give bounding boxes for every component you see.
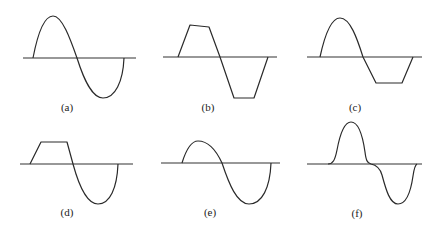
panel-f: (f) [307, 122, 422, 220]
label-b: (b) [202, 101, 215, 114]
panel-a: (a) [23, 16, 136, 114]
waveform-c [320, 18, 413, 83]
label-e: (e) [204, 206, 217, 219]
panel-b: (b) [163, 25, 277, 114]
waveform-b [178, 25, 268, 98]
panel-c: (c) [307, 18, 422, 114]
waveform-figure: (a) (b) (c) (d) (e) (f) [0, 0, 435, 233]
label-c: (c) [349, 101, 362, 114]
label-d: (d) [61, 206, 74, 219]
waveform-e [182, 141, 271, 204]
panel-d: (d) [20, 142, 133, 219]
waveform-d [30, 142, 118, 204]
panel-e: (e) [161, 141, 280, 219]
waveform-f [328, 122, 417, 204]
waveform-a [33, 16, 124, 98]
label-f: (f) [352, 207, 363, 220]
label-a: (a) [61, 101, 74, 114]
